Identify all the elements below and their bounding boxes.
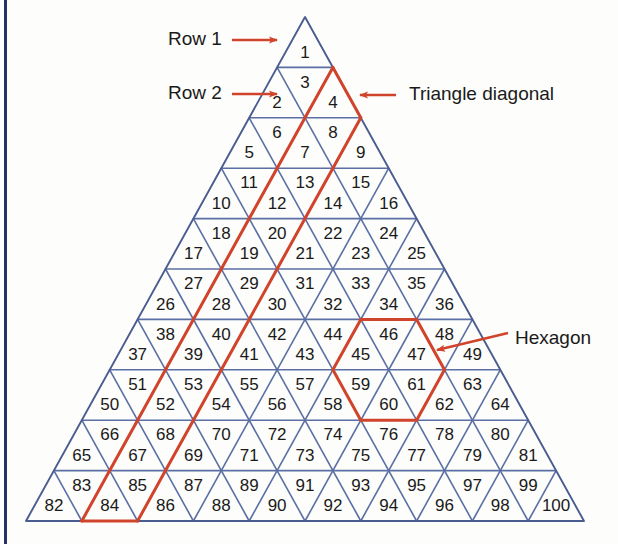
- cell-number: 32: [323, 295, 342, 314]
- cell-number: 98: [491, 496, 510, 515]
- cell-number: 17: [184, 244, 203, 263]
- cell-number: 8: [328, 123, 337, 142]
- cell-number: 6: [272, 123, 281, 142]
- cell-number: 4: [328, 93, 337, 112]
- cell-number: 99: [519, 476, 538, 495]
- cell-number: 82: [44, 496, 63, 515]
- cell-number: 77: [407, 446, 426, 465]
- cell-number: 12: [268, 194, 287, 213]
- cell-number: 89: [240, 476, 259, 495]
- cell-number: 54: [212, 395, 231, 414]
- cell-number: 55: [240, 375, 259, 394]
- cell-number: 84: [100, 496, 119, 515]
- cell-number: 100: [542, 496, 570, 515]
- cell-number: 28: [212, 295, 231, 314]
- cell-number: 21: [296, 244, 315, 263]
- cell-number: 60: [379, 395, 398, 414]
- cell-number: 71: [240, 446, 259, 465]
- cell-number: 79: [463, 446, 482, 465]
- cell-number: 65: [72, 446, 91, 465]
- cell-number: 41: [240, 345, 259, 364]
- cell-number: 56: [268, 395, 287, 414]
- cell-number: 68: [156, 425, 175, 444]
- cell-number: 2: [272, 93, 281, 112]
- cell-number: 3: [300, 73, 309, 92]
- cell-number: 66: [100, 425, 119, 444]
- cell-number: 95: [407, 476, 426, 495]
- cell-number: 93: [351, 476, 370, 495]
- cell-number: 58: [323, 395, 342, 414]
- cell-number: 45: [351, 345, 370, 364]
- cell-number: 69: [184, 446, 203, 465]
- cell-number: 52: [156, 395, 175, 414]
- annotation-label-row-1: Row 1: [168, 28, 222, 49]
- cell-number: 27: [184, 274, 203, 293]
- cell-number: 75: [351, 446, 370, 465]
- cell-number: 81: [519, 446, 538, 465]
- cell-number: 90: [268, 496, 287, 515]
- cell-number: 83: [72, 476, 91, 495]
- cell-number: 1: [300, 43, 309, 62]
- cell-number: 40: [212, 325, 231, 344]
- cell-number: 48: [435, 325, 454, 344]
- cell-number: 37: [128, 345, 147, 364]
- cell-number: 22: [323, 224, 342, 243]
- triangular-grid-figure: 1234567891011121314151617181920212223242…: [0, 0, 618, 544]
- cell-number: 50: [100, 395, 119, 414]
- left-border-rule: [4, 0, 7, 544]
- cell-number: 92: [323, 496, 342, 515]
- cell-number: 51: [128, 375, 147, 394]
- cell-number: 78: [435, 425, 454, 444]
- cell-number: 86: [156, 496, 175, 515]
- cell-number: 18: [212, 224, 231, 243]
- cell-number: 23: [351, 244, 370, 263]
- cell-number: 88: [212, 496, 231, 515]
- cell-number: 49: [463, 345, 482, 364]
- cell-number: 34: [379, 295, 398, 314]
- cell-number: 38: [156, 325, 175, 344]
- cell-number: 31: [296, 274, 315, 293]
- cell-number: 96: [435, 496, 454, 515]
- cell-number: 57: [296, 375, 315, 394]
- annotation-label-row-2: Row 2: [168, 82, 222, 103]
- cell-number: 42: [268, 325, 287, 344]
- cell-number: 13: [296, 173, 315, 192]
- cell-number: 62: [435, 395, 454, 414]
- triangle-diagram-canvas: 1234567891011121314151617181920212223242…: [0, 0, 618, 544]
- cell-number: 80: [491, 425, 510, 444]
- cell-number: 59: [351, 375, 370, 394]
- cell-number: 35: [407, 274, 426, 293]
- cell-number: 43: [296, 345, 315, 364]
- cell-number: 29: [240, 274, 259, 293]
- cell-number: 97: [463, 476, 482, 495]
- cell-number: 85: [128, 476, 147, 495]
- cell-number: 10: [212, 194, 231, 213]
- cell-number: 5: [244, 143, 253, 162]
- annotation-label-triangle-diagonal: Triangle diagonal: [409, 83, 554, 104]
- cell-number: 47: [407, 345, 426, 364]
- cell-number: 70: [212, 425, 231, 444]
- cell-number: 76: [379, 425, 398, 444]
- cell-number: 39: [184, 345, 203, 364]
- cell-number: 30: [268, 295, 287, 314]
- cell-number: 19: [240, 244, 259, 263]
- cell-number: 74: [323, 425, 342, 444]
- cell-number: 7: [300, 143, 309, 162]
- cell-number: 64: [491, 395, 510, 414]
- cell-number: 16: [379, 194, 398, 213]
- cell-number: 61: [407, 375, 426, 394]
- cell-number: 9: [356, 143, 365, 162]
- cell-number: 72: [268, 425, 287, 444]
- cell-number: 11: [240, 173, 258, 192]
- cell-number: 14: [323, 194, 342, 213]
- cell-number: 94: [379, 496, 398, 515]
- cell-number: 33: [351, 274, 370, 293]
- cell-number: 20: [268, 224, 287, 243]
- cell-number: 36: [435, 295, 454, 314]
- cell-number: 24: [379, 224, 398, 243]
- cell-number: 46: [379, 325, 398, 344]
- cell-number: 26: [156, 295, 175, 314]
- annotation-label-hexagon: Hexagon: [515, 327, 591, 348]
- cell-number: 87: [184, 476, 203, 495]
- cell-number: 67: [128, 446, 147, 465]
